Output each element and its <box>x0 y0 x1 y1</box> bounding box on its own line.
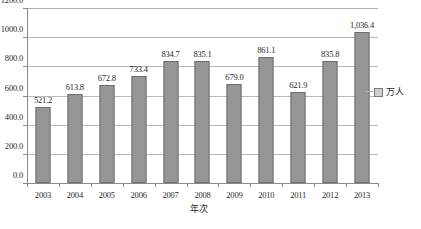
x-axis-category-label: 2007 <box>155 190 187 200</box>
x-axis-title: 年次 <box>0 204 421 215</box>
y-axis-tick-label: 1200.0 <box>0 0 23 5</box>
bar-value-label: 835.1 <box>193 50 211 59</box>
bar-value-label: 733.4 <box>130 65 148 74</box>
x-axis-category-label: 2009 <box>218 190 250 200</box>
x-axis-tick <box>91 183 92 187</box>
x-axis-labels: 2003200420052006200720082009201020112012… <box>27 190 378 204</box>
y-axis-tick <box>23 8 27 9</box>
x-axis-tick <box>218 183 219 187</box>
y-axis-labels: 0.0200.0400.0600.0800.01000.01200.0 <box>0 0 23 175</box>
y-axis-tick-label: 600.0 <box>0 84 23 93</box>
y-axis-tick-label: 800.0 <box>0 54 23 63</box>
x-axis-category-label: 2010 <box>250 190 282 200</box>
bar-slot: 679.0 <box>218 8 250 183</box>
bar-value-label: 861.1 <box>257 46 275 55</box>
x-axis-category-label: 2004 <box>59 190 91 200</box>
y-axis-tick-label: 0.0 <box>0 171 23 180</box>
bar-slot: 835.1 <box>187 8 219 183</box>
bar-value-label: 672.8 <box>98 74 116 83</box>
bar-value-label: 621.9 <box>289 81 307 90</box>
x-axis-tick <box>346 183 347 187</box>
bar[interactable] <box>227 84 242 183</box>
x-axis-category-label: 2006 <box>123 190 155 200</box>
y-axis-tick <box>23 154 27 155</box>
bar-value-label: 679.0 <box>225 73 243 82</box>
bar[interactable] <box>323 61 338 183</box>
x-axis-tick <box>59 183 60 187</box>
bar-slot: 621.9 <box>282 8 314 183</box>
bar-value-label: 834.7 <box>162 50 180 59</box>
bar-value-label: 613.8 <box>66 83 84 92</box>
bar[interactable] <box>291 92 306 183</box>
x-axis-tick <box>155 183 156 187</box>
x-axis-tick <box>250 183 251 187</box>
x-axis-tick <box>282 183 283 187</box>
x-axis-line <box>27 183 379 184</box>
bar[interactable] <box>67 94 82 184</box>
x-axis-category-label: 2008 <box>187 190 219 200</box>
x-axis-category-label: 2005 <box>91 190 123 200</box>
bar[interactable] <box>35 107 50 183</box>
y-axis-tick-label: 200.0 <box>0 142 23 151</box>
chart-legend: 万人 <box>374 87 404 97</box>
legend-item-label: 万人 <box>386 87 404 97</box>
y-axis-tick <box>23 125 27 126</box>
bar[interactable] <box>131 76 146 183</box>
bar-slot: 834.7 <box>155 8 187 183</box>
x-axis-tick <box>378 183 379 187</box>
x-axis-title-text: 年次 <box>190 204 208 214</box>
legend-swatch-icon <box>374 88 383 97</box>
bar[interactable] <box>259 57 274 183</box>
x-axis-category-label: 2012 <box>314 190 346 200</box>
bar-slot: 521.2 <box>27 8 59 183</box>
x-axis-category-label: 2013 <box>346 190 378 200</box>
bar-slot: 835.8 <box>314 8 346 183</box>
bar-value-label: 1,036.4 <box>350 21 374 30</box>
y-axis-tick <box>23 183 27 184</box>
bar-value-label: 521.2 <box>34 96 52 105</box>
y-axis-tick-label: 1000.0 <box>0 25 23 34</box>
bars-layer: 521.2613.8672.8733.4834.7835.1679.0861.1… <box>27 8 378 183</box>
y-axis-tick <box>23 66 27 67</box>
bar[interactable] <box>355 32 370 183</box>
bar[interactable] <box>195 61 210 183</box>
y-axis-tick <box>23 96 27 97</box>
x-axis-tick <box>314 183 315 187</box>
x-axis-tick <box>27 183 28 187</box>
legend-connector-line <box>366 91 373 92</box>
x-axis-category-label: 2011 <box>282 190 314 200</box>
bar-slot: 861.1 <box>250 8 282 183</box>
x-axis-category-label: 2003 <box>27 190 59 200</box>
x-axis-tick <box>123 183 124 187</box>
bar-slot: 672.8 <box>91 8 123 183</box>
bar-value-label: 835.8 <box>321 50 339 59</box>
bar[interactable] <box>163 61 178 183</box>
y-axis-tick-label: 400.0 <box>0 113 23 122</box>
bar-slot: 613.8 <box>59 8 91 183</box>
x-axis-tick <box>187 183 188 187</box>
y-axis-tick <box>23 37 27 38</box>
bar-slot: 733.4 <box>123 8 155 183</box>
bar-chart: 0.0200.0400.0600.0800.01000.01200.0 521.… <box>0 0 421 229</box>
bar[interactable] <box>99 85 114 183</box>
